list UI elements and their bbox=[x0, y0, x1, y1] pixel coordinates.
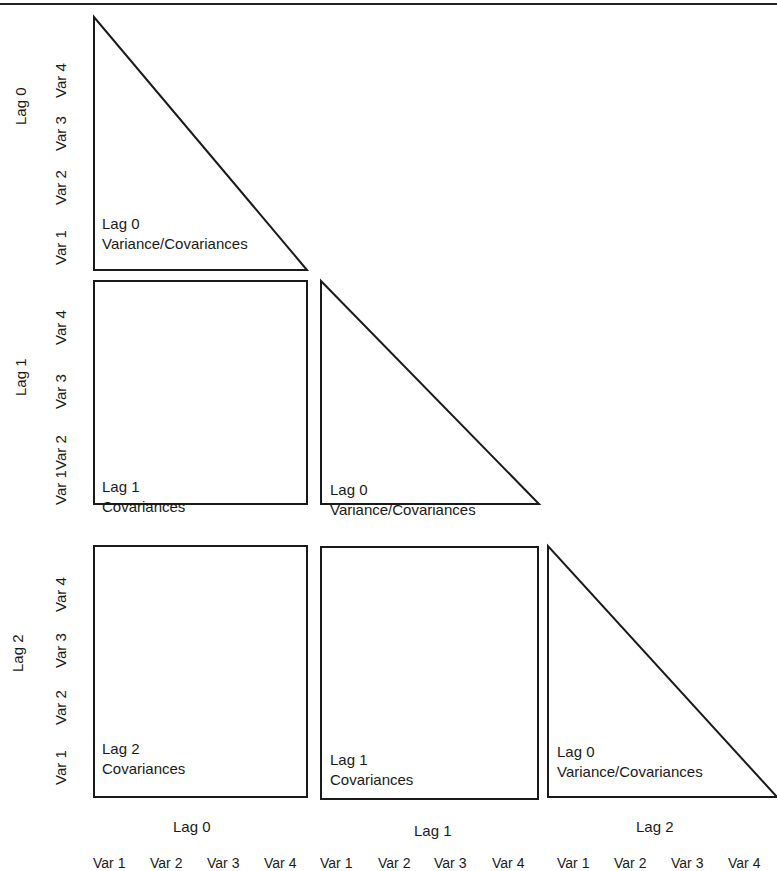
col-var-label: Var 1 bbox=[93, 855, 125, 871]
cell-label-r2c1: Lag 1 Covariances bbox=[330, 750, 413, 790]
row-var-label: Var 1 bbox=[52, 470, 70, 505]
row-group-label-lag1: Lag 1 bbox=[12, 358, 30, 396]
row-var-label: Var 2 bbox=[52, 435, 70, 470]
cell-label-line1: Lag 0 bbox=[102, 214, 248, 234]
row-var-label: Var 3 bbox=[52, 374, 70, 409]
cell-label-line1: Lag 0 bbox=[330, 480, 476, 500]
col-var-label: Var 2 bbox=[614, 855, 646, 871]
col-var-label: Var 1 bbox=[557, 855, 589, 871]
cell-label-line2: Covariances bbox=[102, 759, 185, 779]
col-var-label: Var 4 bbox=[264, 855, 296, 871]
cell-label-line1: Lag 2 bbox=[102, 739, 185, 759]
cell-label-r1c0: Lag 1 Covariances bbox=[102, 477, 185, 517]
cell-label-line1: Lag 0 bbox=[557, 742, 703, 762]
col-var-label: Var 3 bbox=[207, 855, 239, 871]
cell-label-line1: Lag 1 bbox=[102, 477, 185, 497]
col-group-label-lag0: Lag 0 bbox=[173, 818, 211, 836]
row-var-label: Var 4 bbox=[52, 63, 70, 98]
col-group-label-lag2: Lag 2 bbox=[636, 818, 674, 836]
cell-label-r2c2: Lag 0 Variance/Covariances bbox=[557, 742, 703, 782]
row-var-label: Var 1 bbox=[52, 230, 70, 265]
col-var-label: Var 3 bbox=[434, 855, 466, 871]
cell-label-line2: Covariances bbox=[330, 770, 413, 790]
cell-lag1-lag0-rect bbox=[94, 281, 307, 504]
cell-label-line2: Variance/Covariances bbox=[557, 762, 703, 782]
row-var-label: Var 1 bbox=[52, 750, 70, 785]
row-group-label-lag0: Lag 0 bbox=[12, 87, 30, 125]
col-var-label: Var 4 bbox=[728, 855, 760, 871]
cell-label-line2: Covariances bbox=[102, 497, 185, 517]
cell-label-line1: Lag 1 bbox=[330, 750, 413, 770]
row-var-label: Var 3 bbox=[52, 633, 70, 668]
cell-label-line2: Variance/Covariances bbox=[102, 234, 248, 254]
col-var-label: Var 2 bbox=[378, 855, 410, 871]
row-group-label-lag2: Lag 2 bbox=[9, 634, 27, 672]
cell-label-r2c0: Lag 2 Covariances bbox=[102, 739, 185, 779]
row-var-label: Var 4 bbox=[52, 577, 70, 612]
row-var-label: Var 3 bbox=[52, 116, 70, 151]
row-var-label: Var 2 bbox=[52, 170, 70, 205]
cell-label-r0c0: Lag 0 Variance/Covariances bbox=[102, 214, 248, 254]
col-var-label: Var 1 bbox=[320, 855, 352, 871]
col-var-label: Var 2 bbox=[150, 855, 182, 871]
cell-label-r1c1: Lag 0 Variance/Covariances bbox=[330, 480, 476, 520]
cell-lag1-lag1-triangle bbox=[321, 281, 539, 504]
row-var-label: Var 4 bbox=[52, 310, 70, 345]
col-group-label-lag1: Lag 1 bbox=[414, 822, 452, 840]
col-var-label: Var 4 bbox=[492, 855, 524, 871]
row-var-label: Var 2 bbox=[52, 690, 70, 725]
cell-label-line2: Variance/Covariances bbox=[330, 500, 476, 520]
col-var-label: Var 3 bbox=[671, 855, 703, 871]
